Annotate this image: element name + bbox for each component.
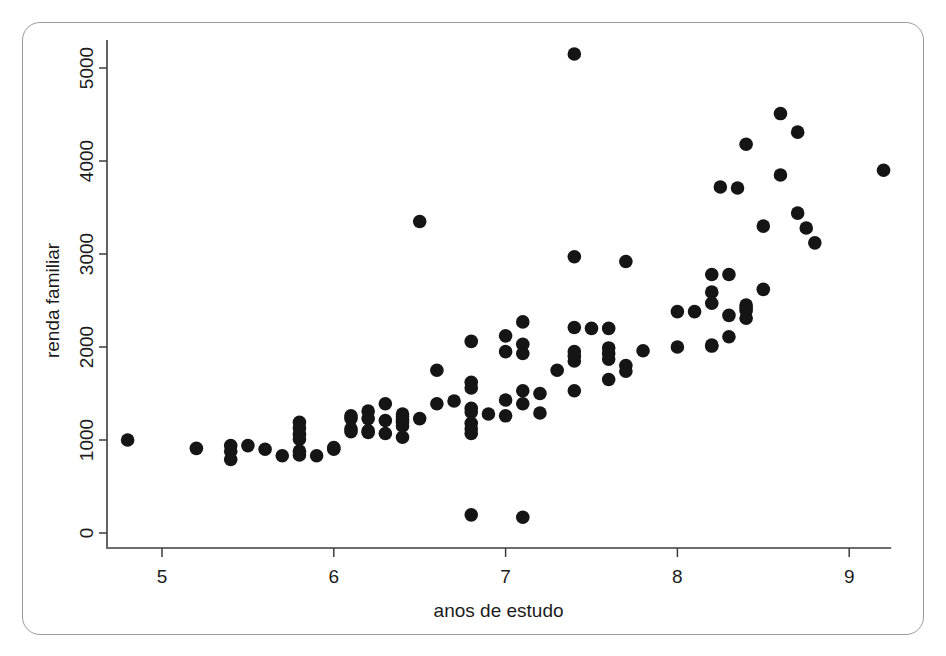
y-tick-label-3000: 3000 bbox=[76, 233, 97, 275]
y-axis-title: renda familiar bbox=[42, 242, 63, 358]
data-point bbox=[619, 364, 633, 378]
data-point bbox=[379, 397, 393, 411]
data-point bbox=[568, 250, 582, 264]
data-point bbox=[499, 329, 513, 343]
y-tick-label-2000: 2000 bbox=[76, 326, 97, 368]
data-point bbox=[310, 449, 324, 463]
data-point bbox=[499, 345, 513, 359]
data-point bbox=[190, 442, 204, 456]
data-point bbox=[722, 309, 736, 323]
data-point bbox=[224, 453, 238, 467]
data-point bbox=[550, 363, 564, 377]
axes-group bbox=[99, 40, 891, 557]
data-point bbox=[464, 427, 478, 441]
data-point bbox=[739, 311, 753, 325]
data-point bbox=[447, 394, 461, 408]
data-point bbox=[791, 125, 805, 139]
data-point bbox=[327, 441, 341, 455]
data-point bbox=[121, 433, 135, 447]
y-tick-label-5000: 5000 bbox=[76, 47, 97, 89]
data-point bbox=[722, 330, 736, 344]
data-point bbox=[602, 352, 616, 366]
data-point bbox=[774, 168, 788, 182]
data-point bbox=[516, 315, 530, 329]
data-point bbox=[877, 164, 891, 178]
data-point bbox=[757, 219, 771, 233]
y-tick-label-0: 0 bbox=[76, 528, 97, 539]
scatter-plot: 01000200030004000500056789anos de estudo… bbox=[0, 0, 946, 656]
data-point bbox=[293, 448, 307, 462]
data-point bbox=[636, 344, 650, 358]
x-tick-label-9: 9 bbox=[844, 566, 855, 587]
data-point bbox=[799, 221, 813, 235]
data-point bbox=[774, 107, 788, 121]
data-point bbox=[499, 393, 513, 407]
data-point bbox=[757, 283, 771, 297]
data-point bbox=[344, 425, 358, 439]
data-point bbox=[722, 268, 736, 282]
data-point bbox=[705, 296, 719, 310]
data-point bbox=[516, 384, 530, 398]
data-point bbox=[361, 412, 375, 426]
data-point bbox=[379, 427, 393, 441]
figure-page: 01000200030004000500056789anos de estudo… bbox=[0, 0, 946, 656]
x-tick-label-6: 6 bbox=[329, 566, 340, 587]
data-point bbox=[808, 236, 822, 250]
x-tick-label-5: 5 bbox=[157, 566, 168, 587]
data-point bbox=[714, 180, 728, 194]
y-tick-label-4000: 4000 bbox=[76, 140, 97, 182]
data-point bbox=[791, 206, 805, 220]
data-point bbox=[619, 255, 633, 269]
data-point bbox=[568, 384, 582, 398]
y-tick-label-1000: 1000 bbox=[76, 419, 97, 461]
data-point bbox=[731, 181, 745, 195]
data-point bbox=[241, 439, 255, 453]
data-point bbox=[688, 305, 702, 319]
x-axis-title: anos de estudo bbox=[434, 600, 564, 621]
data-point bbox=[413, 412, 427, 426]
data-point bbox=[258, 443, 272, 457]
data-point bbox=[568, 354, 582, 368]
data-point bbox=[275, 449, 289, 463]
data-point bbox=[705, 339, 719, 353]
data-point bbox=[585, 322, 599, 336]
data-point bbox=[482, 407, 496, 421]
data-point bbox=[361, 426, 375, 440]
data-point bbox=[533, 406, 547, 420]
data-point bbox=[413, 215, 427, 229]
data-point bbox=[464, 381, 478, 395]
data-point bbox=[464, 335, 478, 349]
x-tick-label-8: 8 bbox=[672, 566, 683, 587]
data-point bbox=[516, 397, 530, 411]
data-point bbox=[499, 409, 513, 423]
data-point bbox=[533, 387, 547, 401]
data-point bbox=[293, 432, 307, 446]
data-point bbox=[705, 268, 719, 282]
data-point bbox=[396, 430, 410, 444]
data-point bbox=[671, 340, 685, 354]
data-point bbox=[430, 397, 444, 411]
x-tick-label-7: 7 bbox=[500, 566, 511, 587]
data-point bbox=[602, 322, 616, 336]
data-point bbox=[516, 510, 530, 524]
data-point bbox=[739, 137, 753, 151]
data-point bbox=[516, 347, 530, 361]
data-point bbox=[602, 373, 616, 387]
data-point bbox=[430, 363, 444, 377]
data-point bbox=[379, 414, 393, 428]
data-points-group bbox=[121, 47, 891, 524]
data-point bbox=[568, 321, 582, 335]
data-point bbox=[671, 305, 685, 319]
data-point bbox=[464, 508, 478, 522]
data-point bbox=[568, 47, 582, 61]
